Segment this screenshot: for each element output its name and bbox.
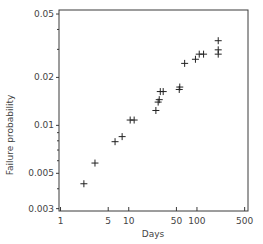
data-points bbox=[80, 37, 221, 187]
data-point bbox=[200, 51, 207, 58]
data-point bbox=[80, 180, 87, 187]
data-point bbox=[91, 160, 98, 167]
x-tick-label: 10 bbox=[123, 216, 135, 226]
x-tick-label: 1 bbox=[58, 216, 64, 226]
data-point bbox=[131, 117, 138, 124]
data-point bbox=[112, 138, 119, 145]
x-tick-label: 100 bbox=[188, 216, 205, 226]
data-point bbox=[152, 107, 159, 114]
data-point bbox=[181, 60, 188, 67]
chart: 151050100500 0.0030.0050.010.020.05 Days… bbox=[0, 0, 263, 244]
data-point bbox=[215, 37, 222, 44]
y-axis-title: Failure probability bbox=[5, 94, 15, 175]
x-axis-title: Days bbox=[142, 229, 165, 239]
y-tick-label: 0.003 bbox=[28, 204, 54, 214]
y-tick-label: 0.01 bbox=[34, 120, 54, 130]
y-tick-label: 0.05 bbox=[34, 9, 54, 19]
data-point bbox=[215, 46, 222, 53]
x-tick-label: 500 bbox=[236, 216, 253, 226]
data-point bbox=[192, 56, 199, 63]
y-tick-label: 0.005 bbox=[28, 168, 54, 178]
y-axis: 0.0030.0050.010.020.05 bbox=[28, 9, 59, 214]
y-tick-label: 0.02 bbox=[34, 72, 54, 82]
x-tick-label: 5 bbox=[105, 216, 111, 226]
x-tick-label: 50 bbox=[171, 216, 183, 226]
x-axis: 151050100500 bbox=[58, 207, 254, 226]
data-point bbox=[119, 133, 126, 140]
